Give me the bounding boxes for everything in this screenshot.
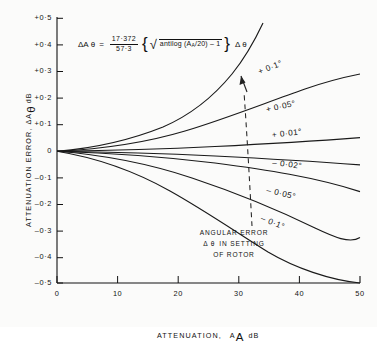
y-tick-label: –0·5 [12, 279, 52, 287]
x-tick-label: 50 [348, 290, 372, 298]
formula-lhs-delta: ΔA [78, 40, 89, 49]
curve-minus-0-1 [57, 151, 360, 283]
formula-fraction: 17·372 57·3 [110, 35, 138, 52]
curve-plus-0-05 [57, 74, 360, 151]
x-tick-label: 40 [287, 290, 311, 298]
formula-radicand: antilog (AA/20) – 1 [159, 39, 222, 48]
annotation-line-2: Δ θIN SETTING [178, 239, 290, 250]
formula-lhs-subscript: θ [91, 40, 95, 49]
formula-trailing-delta-theta: Δ θ [235, 40, 247, 49]
y-tick-label: +0·4 [12, 41, 52, 49]
y-axis-title-symbol: ΔA [24, 113, 33, 125]
y-axis-title-subscript: θ [25, 105, 37, 113]
angular-error-annotation: ANGULAR ERROR Δ θIN SETTING OF ROTOR [178, 228, 290, 261]
x-axis-title-text: ATTENUATION, [157, 331, 222, 340]
x-axis-title-subscript: A [236, 331, 245, 343]
curve-minus-0-02 [57, 151, 360, 191]
y-axis-title-unit: dB [24, 92, 33, 103]
x-tick-label: 0 [45, 290, 69, 298]
y-tick-label: +0·5 [12, 14, 52, 22]
formula-numerator: 17·372 [110, 35, 138, 44]
annotation-delta-theta: Δ θ [203, 240, 215, 247]
formula-denominator: 57·3 [114, 45, 134, 53]
x-axis-ticks [57, 276, 299, 283]
formula-radicand-text: antilog (A [160, 40, 192, 47]
x-tick-label: 30 [227, 290, 251, 298]
formula-brace-open: { [142, 34, 148, 54]
annotation-line-1: ANGULAR ERROR [178, 228, 290, 239]
annotation-line-3: OF ROTOR [178, 250, 290, 261]
y-tick-label: –0·4 [12, 253, 52, 261]
x-axis-title-unit: dB [249, 331, 260, 340]
x-axis-title: ATTENUATION,AAdB [138, 308, 260, 345]
curve-minus-0-05 [57, 151, 360, 240]
angular-error-pointer [240, 76, 253, 226]
x-tick-label: 20 [166, 290, 190, 298]
formula-radicand-rest: /20) – 1 [195, 40, 220, 47]
formula-brace-close: } [224, 34, 230, 54]
formula-radical-sign: √ [150, 37, 157, 52]
formula-expression: ΔAθ = 17·372 57·3 { √antilog (AA/20) – 1… [78, 34, 247, 54]
y-axis-title: ATTENUATION ERROR,ΔAθdB [17, 70, 36, 250]
y-axis-title-text: ATTENUATION ERROR, [24, 128, 33, 227]
annotation-line-2-rest: IN SETTING [219, 240, 265, 247]
formula-equals: = [99, 40, 104, 49]
x-tick-label: 10 [106, 290, 130, 298]
